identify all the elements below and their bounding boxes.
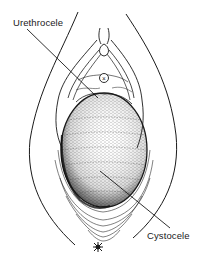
- anatomy-drawing: ×: [0, 0, 206, 269]
- illustration: ×: [0, 0, 206, 269]
- urethral-meatus-mark: ×: [102, 75, 106, 82]
- cystocele-label: Cystocele: [147, 230, 190, 241]
- anus-icon: [93, 242, 103, 252]
- urethrocele-label: Urethrocele: [13, 17, 63, 28]
